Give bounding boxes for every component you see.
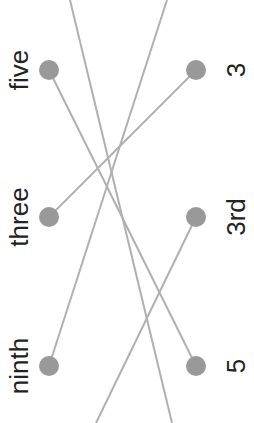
dot-5[interactable]	[186, 356, 206, 376]
dot-three[interactable]	[39, 207, 59, 227]
label-three: three	[4, 187, 35, 246]
label-ninth: ninth	[4, 338, 35, 394]
dot-ninth[interactable]	[39, 356, 59, 376]
connector-three-to-3	[49, 70, 196, 217]
label-3rd: 3rd	[221, 198, 252, 236]
dot-five[interactable]	[39, 60, 59, 80]
matching-diagram: five three ninth 3 3rd 5	[0, 0, 254, 423]
connector-top-to-bottom	[70, 0, 172, 423]
label-5: 5	[221, 359, 252, 373]
label-five: five	[4, 50, 35, 90]
connector-3rd-to-bottom	[96, 217, 196, 423]
dot-3rd[interactable]	[186, 207, 206, 227]
connection-lines	[0, 0, 254, 423]
label-3: 3	[221, 63, 252, 77]
dot-3[interactable]	[186, 60, 206, 80]
